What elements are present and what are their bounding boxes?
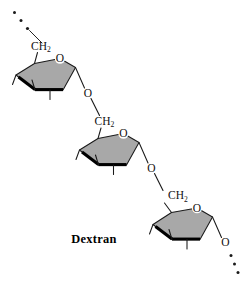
continuation-dot <box>20 19 23 22</box>
bond-ch2-to-c5-unit-3 <box>165 203 172 213</box>
ch2-label-unit-1: CH2 <box>31 40 51 55</box>
ch2-subscript-unit-3: 2 <box>184 195 188 204</box>
bond-glycosidic-o-to-ch2-unit-3 <box>155 174 164 191</box>
ch2-label-unit-2: CH2 <box>95 115 115 130</box>
glycosidic-oxygen-label-1: O <box>84 87 92 99</box>
ch2-text-unit-2: CH <box>95 115 111 127</box>
pyranose-ring-face-unit-1 <box>16 59 76 91</box>
bond-stub-c4-unit-2 <box>76 150 80 160</box>
glycosidic-linkage-1: O <box>84 87 100 116</box>
continuation-dot <box>230 254 233 257</box>
ch2-text-unit-1: CH <box>31 40 47 52</box>
bond-stub-c4-unit-3 <box>150 225 154 235</box>
bond-c1-to-terminal-o-unit-3 <box>213 217 222 238</box>
ch2-text-unit-3: CH <box>168 189 184 201</box>
structure-canvas: O CH2 O O <box>0 0 246 281</box>
glucose-unit-1: O CH2 <box>13 40 85 100</box>
continuation-dot <box>13 11 16 14</box>
bond-glycosidic-o-to-ch2-unit-2 <box>91 99 100 116</box>
terminal-oxygen-label: O <box>221 236 229 248</box>
continuation-dot <box>237 271 240 274</box>
ch2-subscript-unit-2: 2 <box>111 120 115 129</box>
bond-stub-c4-unit-1 <box>13 75 17 85</box>
pyranose-ring-face-unit-2 <box>80 134 140 166</box>
bond-ch2-to-c5-unit-1 <box>35 53 38 64</box>
bond-c1-to-glycosidic-o-unit-1 <box>76 68 85 89</box>
bond-c1-to-glycosidic-o-unit-2 <box>139 143 148 164</box>
figure-caption: Dextran <box>71 232 116 246</box>
glucose-unit-3: O CH2 <box>150 189 222 249</box>
continuation-dot <box>233 263 236 266</box>
glucose-unit-2: O CH2 <box>76 115 148 175</box>
ch2-label-unit-3: CH2 <box>168 189 188 204</box>
glycosidic-oxygen-label-2: O <box>147 162 155 174</box>
bond-ch2-to-c5-unit-2 <box>98 128 101 139</box>
ring-oxygen-label-unit-1: O <box>56 52 64 64</box>
ch2-subscript-unit-1: 2 <box>47 45 51 54</box>
chain-continuation-end: O <box>221 236 239 274</box>
chain-continuation-start <box>13 11 42 43</box>
dextran-structure-figure: O CH2 O O <box>0 0 246 281</box>
ring-oxygen-label-unit-3: O <box>193 202 201 214</box>
glycosidic-linkage-2: O <box>147 162 163 191</box>
continuation-dot <box>26 27 29 30</box>
ring-oxygen-label-unit-2: O <box>119 127 127 139</box>
pyranose-ring-face-unit-3 <box>153 208 213 240</box>
